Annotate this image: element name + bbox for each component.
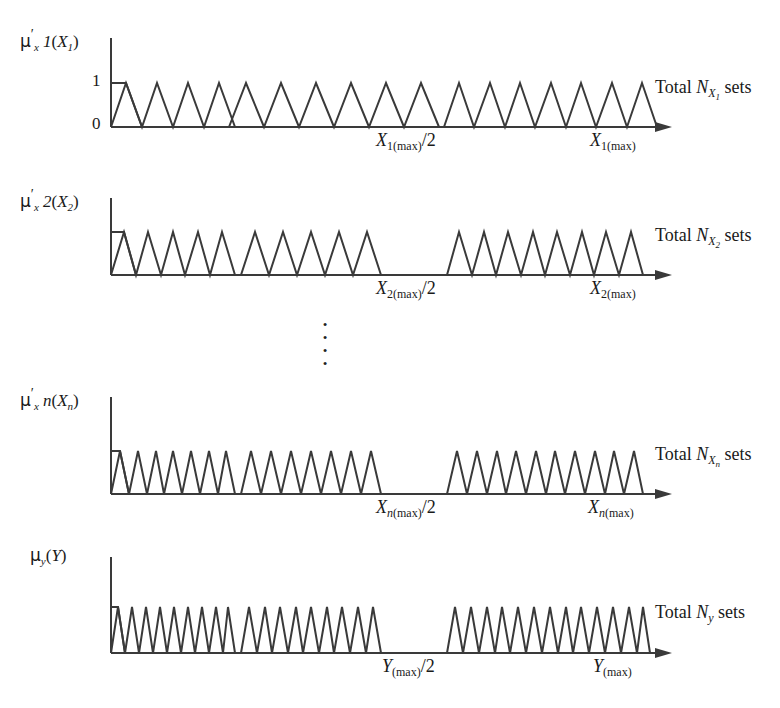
- mf-group2-xn: [241, 451, 381, 494]
- mf-shoulder-x2: [111, 232, 136, 275]
- x-axis-arrowhead-x1: [655, 122, 672, 132]
- mf-group3-y: [447, 607, 650, 653]
- total-sets-label-xn: Total NXn sets: [655, 445, 752, 469]
- x-axis-mid-tick-label-x1: X1(max)/2: [376, 131, 436, 152]
- x-axis-end-tick-label-x1: X1(max): [590, 131, 636, 152]
- mf-group3-x2: [447, 232, 643, 275]
- ellipsis-dot: ·: [320, 357, 330, 370]
- chart-row-y: μy(Y) Y(max)/2 Y(max) Total Ny sets: [0, 545, 780, 695]
- mf-group2-x2: [241, 232, 381, 275]
- mf-group1-x1: [111, 83, 235, 127]
- x-axis-mid-tick-label-x2: X2(max)/2: [376, 279, 436, 300]
- mf-group1-y: [111, 607, 235, 653]
- mf-group3-xn: [447, 451, 643, 494]
- vertical-ellipsis: · · · ·: [320, 318, 330, 370]
- x-axis-mid-tick-label-xn: Xn(max)/2: [376, 498, 436, 519]
- mf-shoulder-x1: [111, 83, 142, 127]
- x-axis-mid-tick-label-y: Y(max)/2: [382, 657, 435, 678]
- chart-row-x1: μ′x 1(X1) 1 0 X1(max)/2 X1: [0, 0, 780, 175]
- chart-row-xn: μ′x n(Xn) Xn(max)/2 Xn(max) Total NXn se…: [0, 385, 780, 525]
- mf-group1-x2: [111, 232, 235, 275]
- x-axis-end-tick-label-x2: X2(max): [590, 279, 636, 300]
- total-sets-label-y: Total Ny sets: [655, 603, 745, 624]
- x-axis-end-tick-label-y: Y(max): [593, 657, 632, 678]
- x-axis-arrowhead-xn: [655, 489, 672, 499]
- x-axis-end-tick-label-xn: Xn(max): [588, 498, 634, 519]
- total-sets-label-x1: Total NX1 sets: [655, 78, 752, 102]
- mf-group2-y: [241, 607, 381, 653]
- figure-canvas: μ′x 1(X1) 1 0 X1(max)/2 X1: [0, 0, 780, 708]
- total-sets-label-x2: Total NX2 sets: [655, 226, 752, 250]
- x-axis-arrowhead-x2: [655, 270, 672, 280]
- mf-shoulder-xn: [111, 451, 129, 494]
- mf-group1-xn: [111, 451, 235, 494]
- mf-group3-x1: [444, 83, 657, 127]
- x-axis-arrowhead-y: [655, 648, 672, 658]
- chart-row-x2: μ′x 2(X2) X2(max)/2 X2(max) Total NX2 se…: [0, 175, 780, 305]
- mf-shoulder-y: [111, 607, 125, 653]
- mf-group2-x1: [229, 83, 439, 127]
